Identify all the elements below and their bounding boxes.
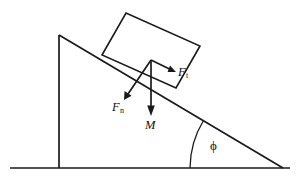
- weight-arrowhead: [147, 106, 155, 117]
- incline-angle-label: ϕ: [210, 139, 217, 152]
- force-tangential-subscript: t: [186, 71, 189, 80]
- force-tangential-arrowhead: [168, 66, 176, 72]
- inclined-plane-figure: Ft Fn M ϕ: [0, 0, 304, 182]
- figure-canvas: [0, 0, 304, 182]
- force-normal-subscript: n: [120, 106, 124, 115]
- force-normal-shaft: [128, 60, 151, 94]
- force-tangential-shaft: [151, 60, 171, 69]
- angle-arc: [190, 121, 204, 169]
- force-normal-label: Fn: [112, 101, 124, 115]
- weight-label: M: [145, 119, 155, 132]
- force-tangential-vector: [151, 60, 176, 72]
- force-tangential-symbol: F: [178, 65, 186, 79]
- force-tangential-label: Ft: [178, 66, 188, 80]
- incline-surface-line: [59, 35, 283, 168]
- force-normal-arrowhead: [124, 91, 132, 100]
- force-normal-symbol: F: [112, 100, 120, 114]
